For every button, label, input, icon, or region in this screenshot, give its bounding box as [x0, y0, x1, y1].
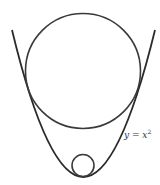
- large-circle: [26, 14, 141, 129]
- label-equals: =: [129, 130, 142, 140]
- diagram-canvas: y = x2: [0, 0, 160, 185]
- equation-label: y = x2: [123, 128, 151, 140]
- label-exponent: 2: [147, 128, 151, 135]
- small-circle: [72, 155, 94, 177]
